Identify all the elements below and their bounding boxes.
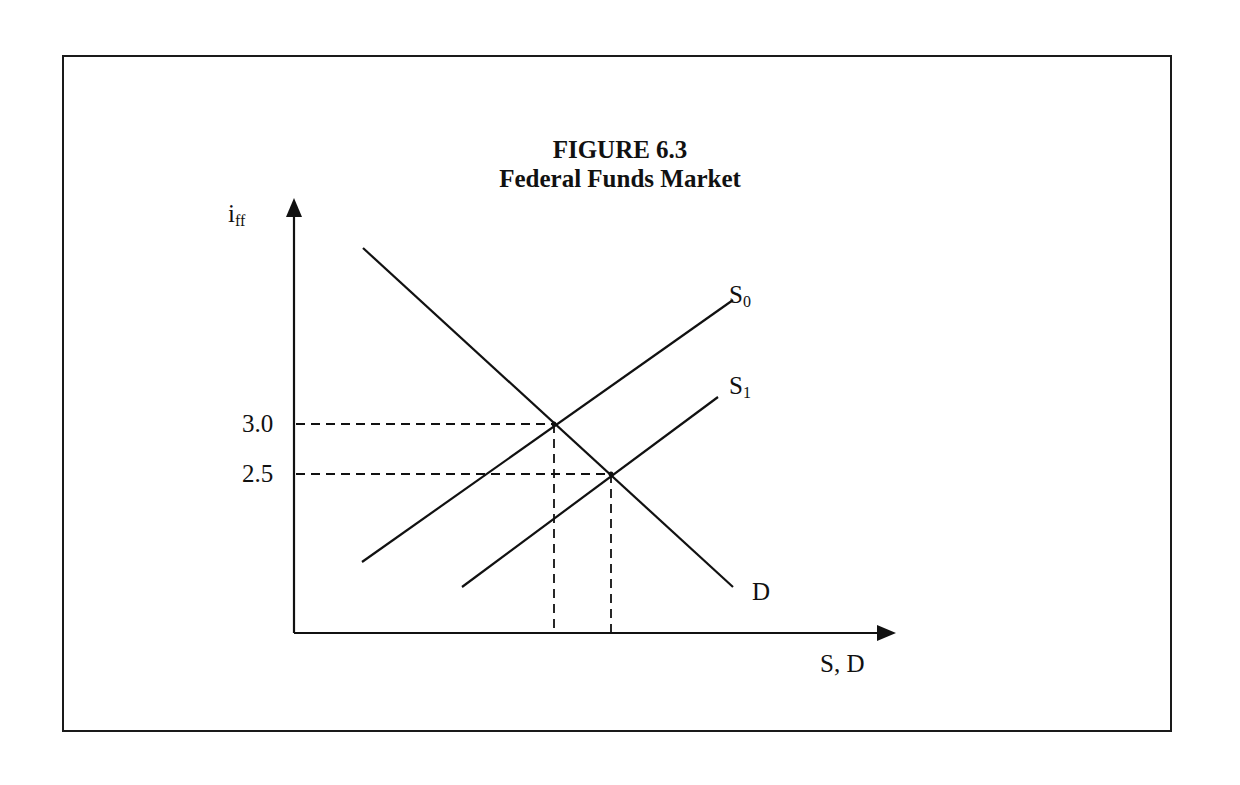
x-axis-label: S, D xyxy=(820,650,864,678)
curve-label-s1: S1 xyxy=(729,372,751,407)
y-axis-arrow-icon xyxy=(286,198,302,217)
x-axis-arrow-icon xyxy=(877,625,896,641)
curves xyxy=(362,248,733,587)
y-axis-label: iff xyxy=(228,200,245,235)
x-axis xyxy=(294,625,896,641)
curve-label-s0: S0 xyxy=(729,281,751,316)
chart-canvas xyxy=(0,0,1240,785)
equilibrium-point-1 xyxy=(609,472,614,477)
equilibrium-point-0 xyxy=(552,422,557,427)
demand-curve-d xyxy=(363,248,733,587)
tick-label-2-5: 2.5 xyxy=(242,460,273,488)
y-axis xyxy=(286,198,302,633)
tick-label-3-0: 3.0 xyxy=(242,410,273,438)
guide-lines xyxy=(296,424,611,633)
curve-label-d: D xyxy=(752,578,770,606)
supply-curve-s1 xyxy=(462,397,718,587)
